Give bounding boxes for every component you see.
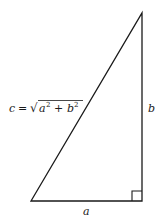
equals-sign: = — [18, 102, 27, 115]
hypotenuse-label: c = √ a 2 + b 2 — [9, 101, 83, 116]
side-a-label: a — [83, 205, 90, 218]
right-triangle-diagram: c = √ a 2 + b 2 b a — [0, 0, 165, 219]
a-squared-base: a — [39, 102, 46, 115]
hypotenuse-var: c — [9, 102, 15, 115]
b-squared-exponent: 2 — [74, 101, 78, 109]
right-angle-marker — [132, 191, 142, 201]
a-squared-exponent: 2 — [46, 101, 50, 109]
radical-sign: √ — [30, 101, 38, 115]
b-squared-base: b — [67, 102, 74, 115]
side-b-label: b — [148, 102, 155, 115]
plus-sign: + — [54, 102, 63, 115]
